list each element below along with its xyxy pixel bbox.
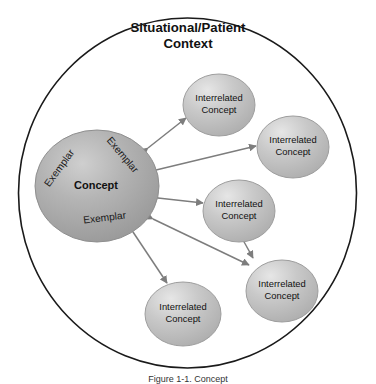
diagram-title-line2: Context	[163, 36, 213, 51]
interrelated-node-bottom[interactable]: Interrelated Concept	[145, 282, 221, 346]
interrelated-node-lower-right-label-line2: Concept	[265, 290, 300, 301]
interrelated-node-upper-right-label-line2: Concept	[276, 146, 311, 157]
diagram-canvas: Situational/Patient Context Exemplar Exe…	[0, 0, 376, 384]
central-concept-node[interactable]: Exemplar Exemplar Exemplar Concept	[35, 130, 159, 242]
diagram-title-line1: Situational/Patient	[130, 20, 246, 35]
interrelated-node-top[interactable]: Interrelated Concept	[183, 74, 255, 136]
interrelated-node-lower-right-label-line1: Interrelated	[258, 278, 305, 289]
interrelated-node-bottom-label-line1: Interrelated	[159, 301, 206, 312]
interrelated-node-top-label-line2: Concept	[202, 104, 237, 115]
concept-diagram-figure: Situational/Patient Context Exemplar Exe…	[0, 0, 376, 384]
interrelated-node-upper-right[interactable]: Interrelated Concept	[257, 116, 329, 178]
interrelated-node-upper-right-label-line1: Interrelated	[269, 134, 316, 145]
interrelated-node-top-label-line1: Interrelated	[195, 92, 242, 103]
figure-caption: Figure 1-1. Concept	[148, 374, 228, 384]
interrelated-node-bottom-label-line2: Concept	[166, 313, 201, 324]
interrelated-node-middle-right[interactable]: Interrelated Concept	[203, 180, 275, 242]
interrelated-node-middle-right-label-line1: Interrelated	[215, 198, 262, 209]
interrelated-node-lower-right[interactable]: Interrelated Concept	[246, 260, 318, 322]
central-concept-label: Concept	[74, 179, 118, 191]
interrelated-node-middle-right-label-line2: Concept	[222, 210, 257, 221]
